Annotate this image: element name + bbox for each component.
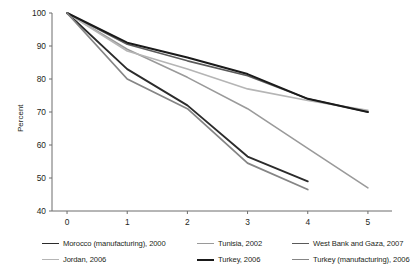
x-axis-tick-label: 0 — [65, 217, 70, 227]
legend-item[interactable]: Tunisia, 2002 — [197, 239, 262, 248]
series-line — [67, 13, 308, 181]
legend-color-swatch — [197, 259, 214, 261]
x-axis: 012345 — [52, 211, 392, 227]
data-series-group — [67, 13, 368, 190]
y-axis-tick-label: 70 — [37, 107, 47, 117]
y-axis-tick-label: 90 — [37, 41, 47, 51]
x-axis-tick-label: 3 — [245, 217, 250, 227]
legend-item-label: Tunisia, 2002 — [218, 239, 262, 248]
legend-row: Jordan, 2006Turkey, 2006Turkey (manufact… — [0, 252, 402, 268]
legend-item-label: Morocco (manufacturing), 2000 — [63, 239, 166, 248]
y-axis-tick-label: 60 — [37, 140, 47, 150]
legend-color-swatch — [292, 243, 309, 244]
chart-legend: Morocco (manufacturing), 2000Tunisia, 20… — [0, 236, 402, 276]
series-line — [67, 13, 368, 188]
legend-item[interactable]: Morocco (manufacturing), 2000 — [42, 239, 166, 248]
series-line — [67, 13, 308, 190]
y-axis: 405060708090100 — [32, 8, 52, 216]
legend-item-label: Turkey (manufacturing), 2006 — [313, 255, 410, 264]
legend-item[interactable]: West Bank and Gaza, 2007 — [292, 239, 403, 248]
legend-color-swatch — [42, 259, 59, 260]
legend-item[interactable]: Jordan, 2006 — [42, 255, 106, 264]
y-axis-title: Percent — [16, 104, 25, 132]
chart-canvas: 405060708090100 012345 — [0, 0, 402, 232]
legend-row: Morocco (manufacturing), 2000Tunisia, 20… — [0, 236, 402, 252]
legend-color-swatch — [292, 259, 309, 260]
plot-area: 405060708090100 012345 Percent — [0, 0, 402, 232]
x-axis-tick-label: 5 — [366, 217, 371, 227]
y-axis-tick-label: 50 — [37, 173, 47, 183]
y-axis-tick-label: 100 — [32, 8, 46, 18]
x-axis-tick-label: 2 — [185, 217, 190, 227]
legend-item-label: Turkey, 2006 — [218, 255, 260, 264]
legend-item-label: West Bank and Gaza, 2007 — [313, 239, 403, 248]
legend-color-swatch — [42, 243, 59, 244]
x-axis-tick-label: 4 — [305, 217, 310, 227]
legend-item[interactable]: Turkey, 2006 — [197, 255, 260, 264]
y-axis-tick-label: 80 — [37, 74, 47, 84]
legend-item[interactable]: Turkey (manufacturing), 2006 — [292, 255, 410, 264]
x-axis-tick-label: 1 — [125, 217, 130, 227]
y-axis-tick-label: 40 — [37, 206, 47, 216]
legend-color-swatch — [197, 243, 214, 244]
legend-item-label: Jordan, 2006 — [63, 255, 106, 264]
